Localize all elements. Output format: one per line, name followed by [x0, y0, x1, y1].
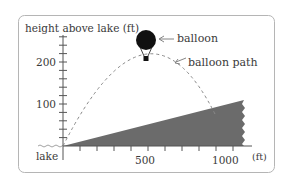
y-tick-label-100: 100: [36, 98, 56, 110]
balloon-label: balloon: [177, 32, 218, 45]
x-axis-unit: (ft): [252, 151, 267, 162]
y-axis-label: height above lake (ft): [25, 22, 139, 34]
x-tick-label-500: 500: [135, 154, 155, 166]
balloon-diagram: height above lake (ft) 200 100 lake 500 …: [0, 0, 288, 188]
origin-label: lake: [36, 150, 58, 162]
y-tick-label-200: 200: [36, 56, 56, 68]
balloon-path-label: balloon path: [188, 56, 258, 69]
x-tick-label-1000: 1000: [212, 154, 239, 166]
